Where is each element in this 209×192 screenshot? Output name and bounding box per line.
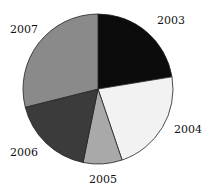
label-2003: 2003 [157,14,185,27]
pie-chart: 2003 2004 2005 2006 2007 [0,0,209,192]
label-2005: 2005 [89,173,117,186]
label-2007: 2007 [10,23,38,36]
label-2004: 2004 [174,123,202,136]
pie-slices [23,14,173,164]
label-2006: 2006 [10,146,38,159]
